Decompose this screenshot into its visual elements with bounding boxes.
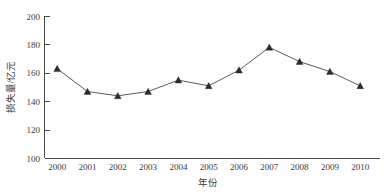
y-tick-label: 140 — [27, 97, 41, 107]
y-axis-tick-labels: 200 180 160 140 120 100 — [27, 12, 41, 164]
x-axis-tick-labels: 2000 2001 2002 2003 2004 2005 2006 2007 … — [48, 162, 370, 172]
data-point-marker — [84, 88, 91, 94]
y-tick-label: 180 — [27, 40, 41, 50]
y-tick-label: 120 — [27, 125, 41, 135]
x-tick-label: 2002 — [109, 162, 127, 172]
line-chart: 200 180 160 140 120 100 2000 2001 2002 2… — [0, 0, 388, 195]
y-tick-label: 200 — [27, 12, 41, 22]
x-tick-label: 2004 — [169, 162, 188, 172]
y-tick-label: 160 — [27, 68, 41, 78]
x-tick-label: 2003 — [139, 162, 158, 172]
x-tick-label: 2009 — [321, 162, 340, 172]
y-axis-title: 损失量/亿元 — [5, 61, 16, 114]
data-point-marker — [357, 82, 364, 88]
x-tick-label: 2001 — [79, 162, 97, 172]
x-tick-label: 2007 — [260, 162, 279, 172]
x-axis-title: 年份 — [198, 177, 218, 188]
x-tick-label: 2008 — [291, 162, 310, 172]
data-point-markers — [54, 44, 364, 99]
data-point-marker — [175, 77, 182, 83]
x-tick-label: 2005 — [200, 162, 219, 172]
x-tick-label: 2006 — [230, 162, 249, 172]
chart-container: 200 180 160 140 120 100 2000 2001 2002 2… — [0, 0, 388, 195]
y-tick-label: 100 — [27, 154, 41, 164]
data-point-marker — [145, 88, 152, 94]
y-axis-ticks — [45, 17, 50, 159]
data-point-marker — [266, 44, 273, 50]
data-point-marker — [54, 65, 61, 71]
data-point-marker — [296, 58, 303, 64]
x-tick-label: 2010 — [351, 162, 370, 172]
data-point-marker — [236, 67, 243, 73]
x-tick-label: 2000 — [48, 162, 67, 172]
